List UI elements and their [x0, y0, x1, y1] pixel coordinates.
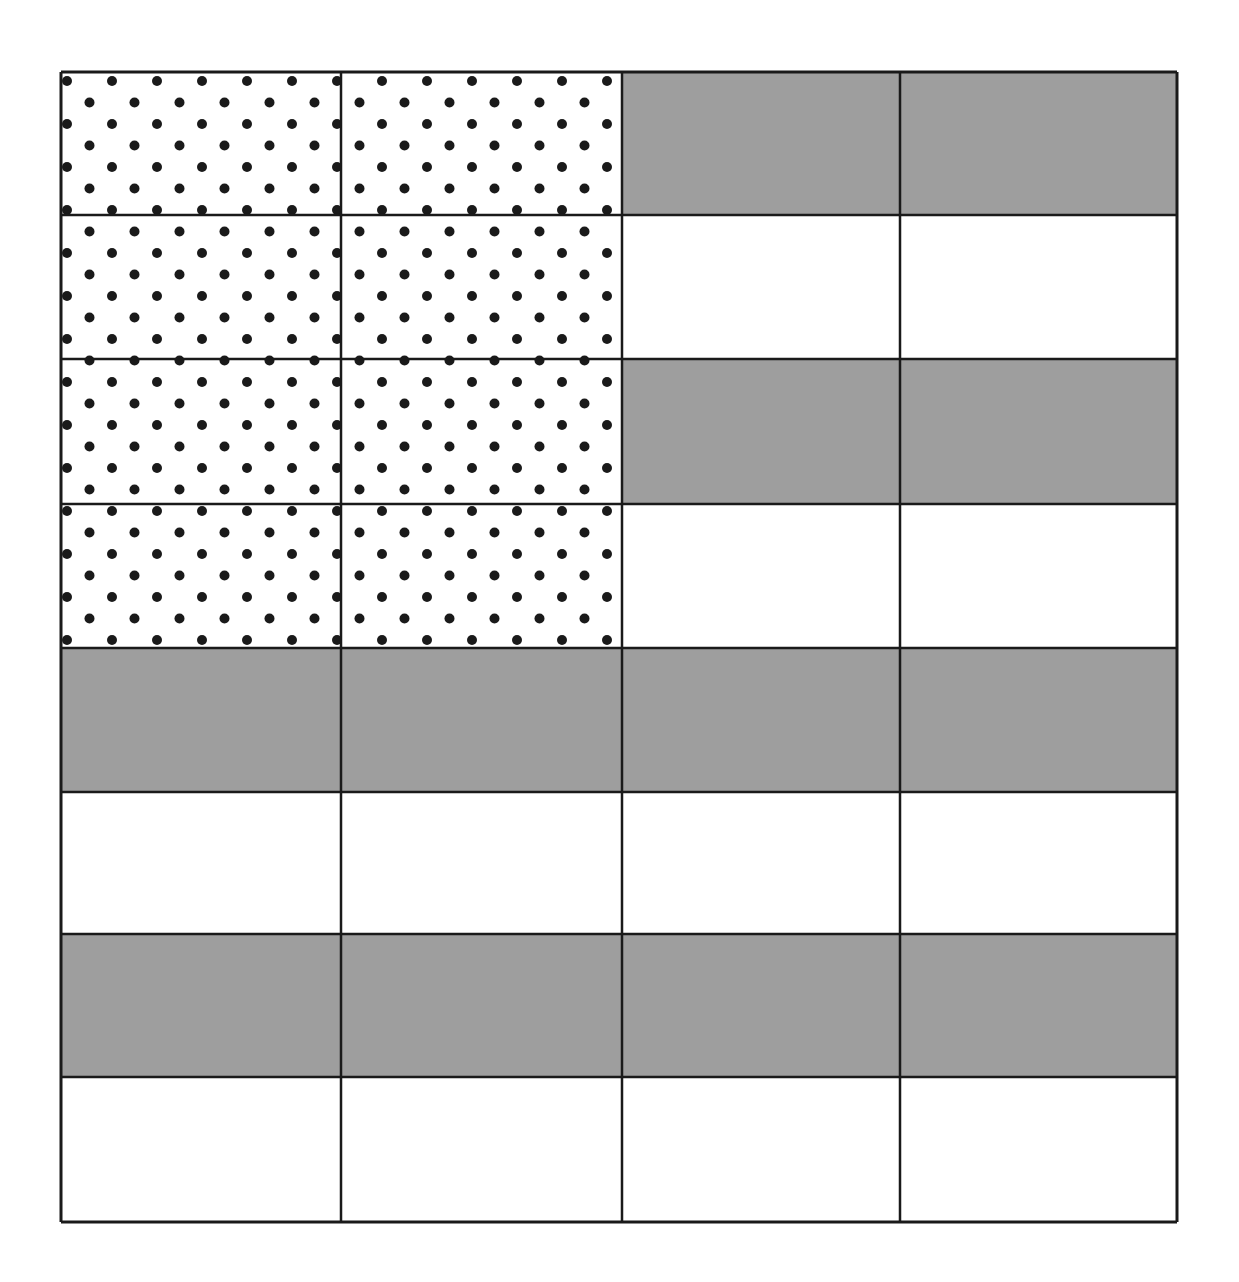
canton-dots	[341, 359, 622, 504]
canton-dots	[61, 72, 341, 215]
gray-stripe-cell	[622, 648, 900, 792]
canton-dots	[61, 215, 341, 359]
gray-stripe-cell	[622, 934, 900, 1077]
white-stripe-cell	[900, 504, 1177, 648]
white-stripe-cell	[61, 792, 341, 934]
white-stripe-cell	[622, 504, 900, 648]
white-stripe-cell	[61, 1077, 341, 1222]
canton-dots	[61, 504, 341, 648]
white-stripe-cell	[341, 1077, 622, 1222]
gray-stripe-cell	[900, 359, 1177, 504]
gray-stripe-cell	[900, 648, 1177, 792]
white-stripe-cell	[900, 1077, 1177, 1222]
canton-dots	[341, 72, 622, 215]
gray-stripe-cell	[341, 934, 622, 1077]
white-stripe-cell	[622, 1077, 900, 1222]
white-stripe-cell	[622, 792, 900, 934]
white-stripe-cell	[622, 215, 900, 359]
striped-grid-diagram	[0, 0, 1239, 1282]
gray-stripe-cell	[900, 72, 1177, 215]
gray-stripe-cell	[622, 72, 900, 215]
white-stripe-cell	[900, 792, 1177, 934]
gray-stripe-cell	[622, 359, 900, 504]
gray-stripe-cell	[900, 934, 1177, 1077]
white-stripe-cell	[900, 215, 1177, 359]
canton-dots	[341, 215, 622, 359]
gray-stripe-cell	[341, 648, 622, 792]
canton-dots	[341, 504, 622, 648]
canton-dots	[61, 359, 341, 504]
gray-stripe-cell	[61, 648, 341, 792]
white-stripe-cell	[341, 792, 622, 934]
gray-stripe-cell	[61, 934, 341, 1077]
